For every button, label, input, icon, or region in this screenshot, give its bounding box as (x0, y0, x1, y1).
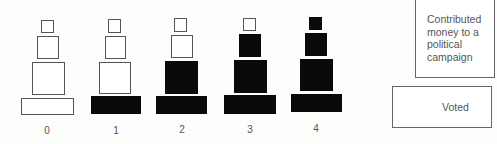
block-level-3 (105, 36, 126, 59)
column-label: 3 (240, 124, 260, 135)
voted-panel: Voted (392, 86, 492, 128)
block-top (309, 17, 322, 30)
block-level-2 (300, 59, 333, 91)
block-level-3 (239, 34, 261, 57)
block-base (21, 98, 74, 115)
block-level-2 (99, 62, 131, 94)
block-top (41, 20, 54, 33)
block-base (291, 94, 342, 112)
block-top (243, 18, 256, 31)
block-level-3 (37, 36, 59, 59)
block-base (91, 96, 141, 114)
block-level-2 (234, 60, 267, 93)
block-level-3 (171, 35, 193, 58)
block-top (108, 19, 121, 33)
column-label: 4 (306, 123, 326, 134)
contributed-panel: Contributed money to a political campaig… (415, 0, 495, 78)
block-level-3 (305, 33, 327, 56)
block-level-2 (32, 62, 65, 95)
block-base (156, 96, 207, 114)
contributed-label: Contributed money to a political campaig… (427, 13, 497, 63)
block-level-2 (165, 61, 198, 94)
column-label: 2 (172, 124, 192, 135)
block-base (224, 95, 276, 114)
block-top (174, 18, 187, 32)
voted-label: Voted (442, 101, 469, 114)
column-label: 0 (37, 125, 57, 136)
column-label: 1 (106, 125, 126, 136)
